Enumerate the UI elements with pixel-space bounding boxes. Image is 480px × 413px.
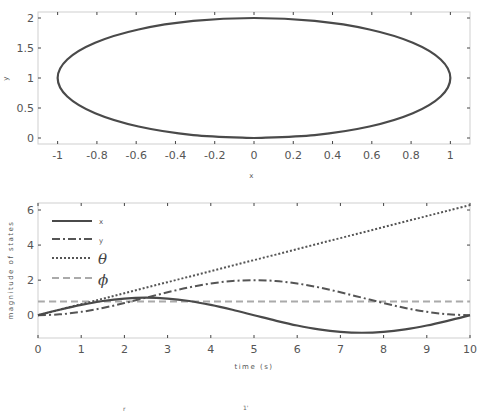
y-tick-label: 2 [27,274,34,287]
y-tick-label: 1 [27,72,34,85]
x-tick-label: -1 [52,149,63,162]
bottom-plot: 0123456789100246 x y θ ϕ time (s) magnit… [7,203,477,371]
x-tick-label: 0 [35,343,42,356]
x-tick-label: 10 [463,343,477,356]
x-tick-label: 1 [78,343,85,356]
x-line [38,298,470,333]
x-tick-label: 4 [207,343,214,356]
footer-fragment-left: r [123,405,126,412]
bottom-xlabel: time (s) [234,363,273,371]
x-tick-label: -0.8 [86,149,107,162]
x-tick-label: 0.4 [324,149,342,162]
x-tick-label: 7 [337,343,344,356]
x-tick-label: 0.6 [363,149,381,162]
x-tick-label: 0.8 [402,149,420,162]
y-tick-label: 2 [27,12,34,25]
top-plot: -1-0.8-0.6-0.4-0.200.20.40.60.8100.511.5… [2,12,470,180]
x-tick-label: 9 [423,343,430,356]
x-tick-label: 3 [164,343,171,356]
legend-theta-label: θ [98,250,107,268]
x-tick-label: 1 [447,149,454,162]
x-tick-label: 8 [380,343,387,356]
top-plot-frame [38,12,470,144]
legend-phi-label: ϕ [98,271,108,289]
y-tick-label: 6 [27,204,34,217]
legend-x-label: x [99,218,103,226]
x-tick-label: -0.4 [165,149,186,162]
x-tick-label: 6 [294,343,301,356]
legend-y-label: y [99,237,103,245]
y-tick-label: 0.5 [17,102,35,115]
top-plot-ticks: -1-0.8-0.6-0.4-0.200.20.40.60.8100.511.5… [17,12,471,162]
x-tick-label: 0 [251,149,258,162]
legend: x y θ ϕ [52,218,108,289]
y-tick-label: 1.5 [17,42,35,55]
figure: -1-0.8-0.6-0.4-0.200.20.40.60.8100.511.5… [0,0,480,413]
x-tick-label: -0.2 [204,149,225,162]
y-tick-label: 0 [27,132,34,145]
top-xlabel: x [249,172,255,180]
top-ylabel: y [2,75,10,81]
ellipse-trajectory-line [58,18,451,138]
x-tick-label: 2 [121,343,128,356]
x-tick-label: -0.6 [125,149,146,162]
footer-fragment-right: 1' [243,404,249,411]
y-tick-label: 0 [27,309,34,322]
x-tick-label: 0.2 [285,149,303,162]
bottom-ylabel: magnitude of states [7,221,15,320]
x-tick-label: 5 [251,343,258,356]
y-tick-label: 4 [27,239,34,252]
bottom-plot-ticks: 0123456789100246 [27,203,477,356]
